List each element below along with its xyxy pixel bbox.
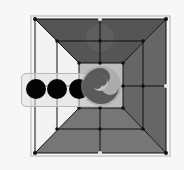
swirl-icon	[81, 66, 121, 106]
black-piece[interactable]	[47, 79, 67, 99]
black-piece[interactable]	[26, 79, 46, 99]
swirl-piece[interactable]	[80, 65, 122, 107]
